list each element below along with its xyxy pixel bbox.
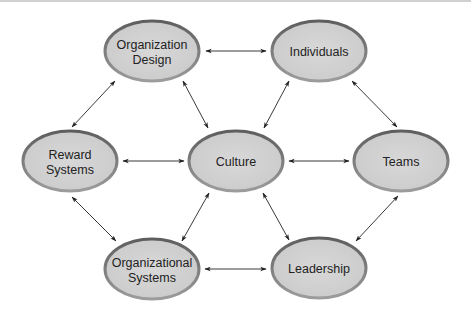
node-organization-design: Organization Design	[105, 21, 199, 81]
node-culture: Culture	[189, 131, 283, 191]
node-label-individuals: Individuals	[289, 45, 348, 59]
arrow-reward-systems-org-systems	[72, 197, 116, 241]
node-individuals: Individuals	[272, 21, 366, 81]
node-label-leadership: Leadership	[288, 262, 350, 276]
node-label-culture: Culture	[216, 155, 256, 169]
node-label-organizational-systems-line1: Organizational	[112, 256, 193, 270]
arrow-individuals-teams	[352, 81, 397, 127]
node-reward-systems: Reward Systems	[23, 131, 117, 191]
node-label-teams: Teams	[383, 155, 420, 169]
node-leadership: Leadership	[272, 238, 366, 298]
node-label-organization-design-line1: Organization	[117, 38, 188, 52]
node-label-reward-systems-line2: Systems	[46, 163, 94, 177]
arrow-org-design-culture	[183, 81, 208, 128]
arrow-culture-leadership	[263, 193, 289, 240]
node-teams: Teams	[354, 131, 448, 191]
arrow-culture-org-systems	[182, 193, 209, 241]
node-label-organization-design-line2: Design	[133, 53, 172, 67]
node-organizational-systems: Organizational Systems	[105, 239, 199, 299]
arrow-org-design-reward-systems	[72, 81, 115, 127]
node-label-organizational-systems-line2: Systems	[128, 271, 176, 285]
arrow-teams-leadership	[356, 196, 398, 241]
arrow-individuals-culture	[264, 81, 289, 128]
node-label-reward-systems-line1: Reward	[48, 148, 91, 162]
culture-network-diagram: Organization Design Individuals Reward S…	[0, 0, 471, 316]
